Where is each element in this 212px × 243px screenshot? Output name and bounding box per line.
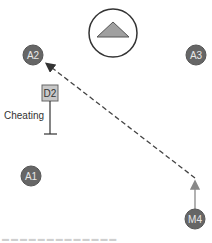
d2-label: D2 <box>44 88 57 99</box>
agent-label-a2: A2 <box>27 50 40 61</box>
inhibition-edge <box>44 101 57 134</box>
agent-node-a1: A1 <box>21 166 41 186</box>
agent-label-m: M4 <box>188 214 202 225</box>
d2-node: D2 <box>42 85 58 101</box>
agent-node-a3: A3 <box>186 45 206 65</box>
agent-label-a1: A1 <box>25 171 38 182</box>
agent-node-m: M4 <box>185 209 205 229</box>
cheating-label: Cheating <box>4 110 44 121</box>
dashed-edge <box>47 64 195 178</box>
footer-text: ▬ ▬ ▬ ▬ ▬ ▬ ▬ ▬ ▬ ▬ ▬ ▬ ▬ <box>2 235 116 242</box>
goal-node <box>89 9 137 57</box>
diagram-canvas: A2 A3 D2 Cheating A1 M4 ▬ ▬ ▬ ▬ ▬ ▬ ▬ ▬ … <box>0 0 212 243</box>
agent-label-a3: A3 <box>190 50 203 61</box>
agent-node-a2: A2 <box>23 45 43 65</box>
